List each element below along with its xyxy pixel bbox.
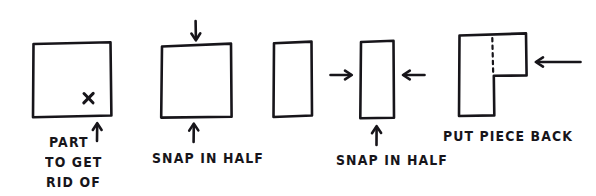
panel-1-x-mark (84, 93, 93, 103)
panel-1-caption-line-2: TO GET (45, 152, 102, 172)
panel-1-square (33, 42, 111, 117)
panel-2-square (161, 44, 231, 118)
panel-4-caption: SNAP IN HALF (336, 150, 448, 170)
panel-5-dashed-seam (492, 38, 493, 74)
panel-4-rectangle (360, 41, 394, 119)
panel-5-caption: PUT PIECE BACK (443, 126, 573, 146)
panel-2-caption: SNAP IN HALF (152, 148, 264, 168)
panel-3-rectangle (274, 42, 313, 117)
panel-1-caption-line-1: PART (49, 132, 89, 152)
instruction-diagram: PART TO GET RID OF SNAP IN HALF SNAP IN … (0, 0, 596, 196)
panel-1-caption-line-3: RID OF (46, 172, 101, 192)
